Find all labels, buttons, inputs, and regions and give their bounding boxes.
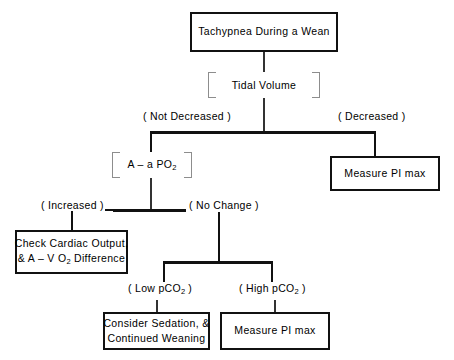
- edge-label-not-decreased: ( Not Decreased ): [142, 110, 232, 122]
- connector-root-to-tidal-volume: [263, 52, 265, 72]
- node-label-line1: Consider Sedation, &: [103, 316, 209, 331]
- flowchart-diagram: Tachypnea During a Wean Tidal Volume ( N…: [0, 0, 454, 360]
- connector-branch-high-pco2: [271, 261, 273, 282]
- node-measure-pi-max-right: Measure PI max: [330, 156, 440, 191]
- bracket-left-icon: [112, 152, 120, 178]
- bracket-right-icon: [312, 72, 320, 98]
- node-label: Tachypnea During a Wean: [198, 24, 330, 39]
- connector-split-bar-level3: [163, 261, 273, 264]
- connector-branch-not-decreased: [150, 131, 152, 153]
- node-label: Measure PI max: [344, 166, 425, 181]
- connector-branch-decreased: [374, 131, 376, 156]
- node-label: Tidal Volume: [232, 79, 297, 91]
- node-tidal-volume: Tidal Volume: [208, 72, 320, 98]
- edge-label-increased: ( Increased ): [40, 199, 105, 211]
- node-consider-sedation: Consider Sedation, & Continued Weaning: [103, 312, 210, 350]
- edge-label-high-pco2: ( High pCO2 ): [238, 282, 307, 296]
- node-label-line2: & A – V O2 Difference: [18, 251, 125, 268]
- edge-label-decreased: ( Decreased ): [337, 110, 407, 122]
- connector-a-a-po2-down: [150, 178, 152, 210]
- node-check-cardiac-output: Check Cardiac Output, & A – V O2 Differe…: [15, 230, 128, 274]
- connector-tidal-volume-down: [263, 98, 265, 132]
- node-label: A – a PO2: [127, 158, 176, 172]
- node-measure-pi-max-bottom: Measure PI max: [220, 312, 330, 350]
- node-label-line2: Continued Weaning: [108, 331, 206, 346]
- connector-branch-increased: [71, 209, 73, 230]
- node-label-line1: Check Cardiac Output,: [15, 236, 129, 251]
- connector-branch-no-change: [218, 212, 220, 262]
- edge-label-no-change: ( No Change ): [188, 199, 260, 211]
- bracket-left-icon: [208, 72, 216, 98]
- node-a-a-po2: A – a PO2: [112, 152, 192, 178]
- bracket-right-icon: [184, 152, 192, 178]
- node-label: Measure PI max: [234, 323, 315, 338]
- node-tachypnea-during-a-wean: Tachypnea During a Wean: [190, 12, 338, 52]
- connector-split-bar-level1: [150, 131, 376, 134]
- edge-label-low-pco2: ( Low pCO2 ): [127, 282, 193, 296]
- connector-split-bar-level2: [113, 209, 186, 212]
- connector-branch-low-pco2: [163, 261, 165, 282]
